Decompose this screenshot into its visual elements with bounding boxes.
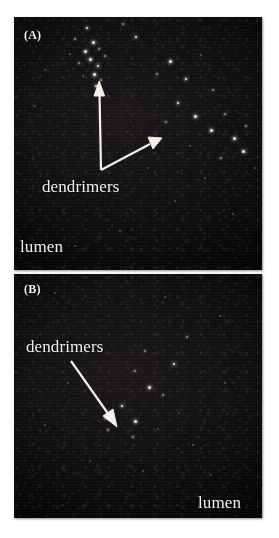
figure-container: (A) dendrimers lumen (0, 0, 279, 538)
panel-a-lumen-label: lumen (20, 238, 63, 255)
panel-a-letter: (A) (24, 29, 41, 41)
panel-a-dendrimers-label: dendrimers (42, 178, 119, 195)
panel-b-vignette (14, 274, 262, 518)
panel-b-lumen-label: lumen (198, 494, 241, 511)
panel-a: (A) dendrimers lumen (14, 17, 262, 270)
panel-b-dendrimers-label: dendrimers (26, 338, 103, 355)
panel-a-vignette (14, 17, 262, 270)
panel-b: (B) dendrimers lumen (14, 274, 262, 518)
panel-b-letter: (B) (24, 283, 41, 295)
